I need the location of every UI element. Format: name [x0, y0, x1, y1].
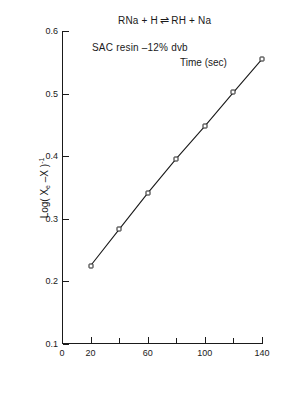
y-tick-label: 0.6: [28, 26, 58, 36]
y-tick-label: 0.2: [28, 276, 58, 286]
x-tick-label: 20: [86, 348, 96, 358]
data-series-line: [62, 31, 262, 344]
y-tick-label: 0.5: [28, 89, 58, 99]
equation-annotation: RNa + H⇌RH + Na: [118, 14, 211, 27]
y-tick-label: 0.1: [28, 339, 58, 349]
x-tick-label: 100: [197, 348, 212, 358]
x-tick-label: 0: [59, 348, 64, 358]
data-point: [88, 263, 93, 268]
data-point: [260, 57, 265, 62]
equilibrium-arrow-icon: ⇌: [158, 14, 171, 27]
equation-right: RH + Na: [171, 15, 211, 26]
x-tick-label: 60: [143, 348, 153, 358]
y-axis-label: Log( Xe –X )-1: [38, 157, 51, 218]
data-point: [231, 90, 236, 95]
data-point: [117, 227, 122, 232]
data-point: [145, 191, 150, 196]
kinetics-figure: RNa + H⇌RH + Na SAC resin –12% dvb 0.10.…: [0, 0, 291, 393]
equation-left: RNa + H: [118, 15, 158, 26]
x-tick: [262, 337, 263, 344]
y-tick: [63, 344, 69, 345]
data-point: [174, 156, 179, 161]
data-point: [202, 124, 207, 129]
plot-area: 0.10.20.30.40.50.6 02060100140 Log( Xe –…: [62, 31, 262, 344]
x-tick-label: 140: [254, 348, 269, 358]
